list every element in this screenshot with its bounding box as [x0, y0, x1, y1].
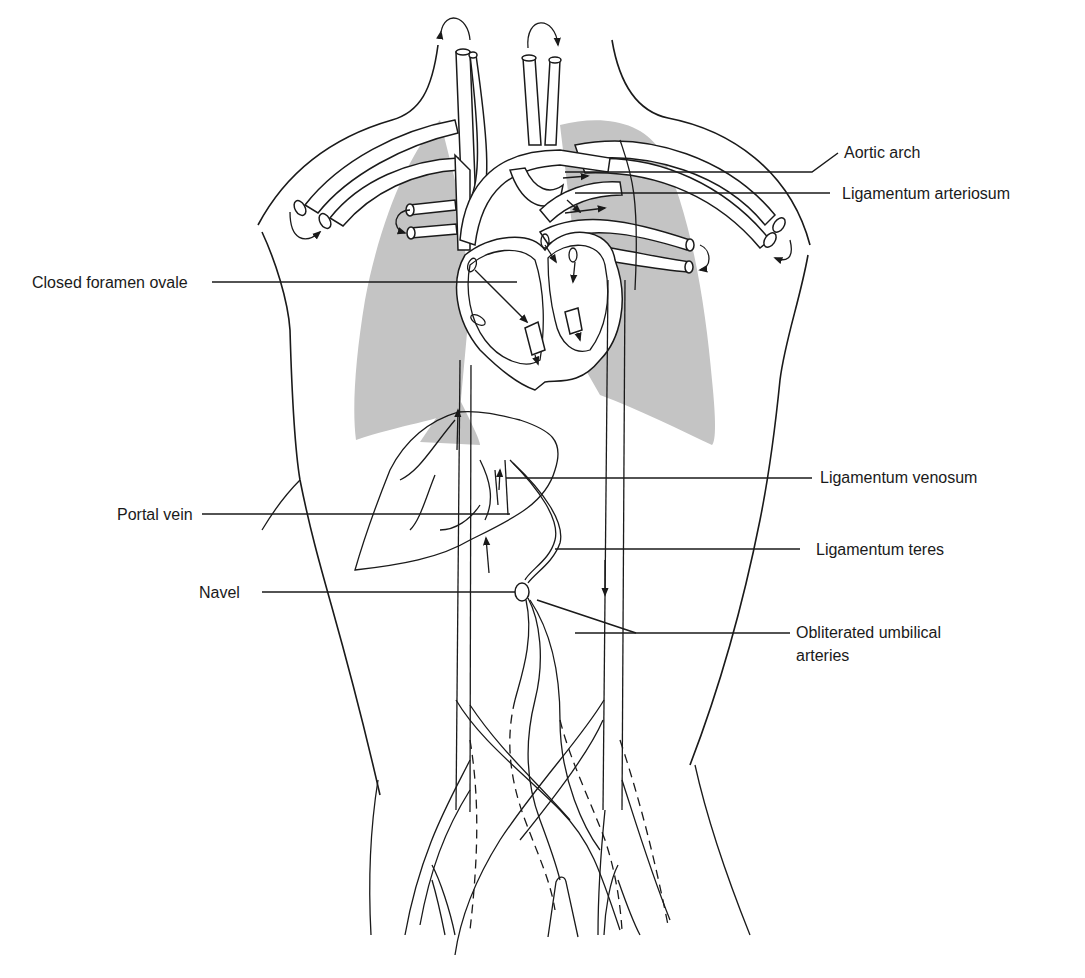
label-obliterated-umbilical-arteries-line1: Obliterated umbilical: [796, 624, 941, 641]
label-navel: Navel: [199, 584, 240, 601]
label-closed-foramen-ovale: Closed foramen ovale: [32, 274, 188, 291]
leg-vessels: [405, 700, 670, 955]
label-ligamentum-teres: Ligamentum teres: [816, 541, 944, 558]
circulation-diagram: Aortic arch Ligamentum arteriosum Closed…: [0, 0, 1085, 978]
label-ligamentum-arteriosum: Ligamentum arteriosum: [842, 185, 1010, 202]
label-portal-vein: Portal vein: [117, 506, 193, 523]
label-aortic-arch: Aortic arch: [844, 144, 920, 161]
label-obliterated-umbilical-arteries-line2: arteries: [796, 647, 849, 664]
navel-shape: [515, 583, 529, 601]
label-ligamentum-venosum: Ligamentum venosum: [820, 469, 977, 486]
